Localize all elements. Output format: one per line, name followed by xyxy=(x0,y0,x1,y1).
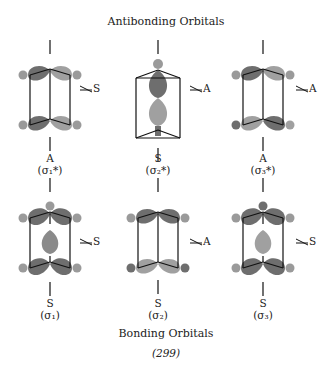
orbital-sigma3 xyxy=(232,178,295,296)
bonding-symmetry-1: S xyxy=(20,297,80,309)
mirror-label-sigma2-star: A xyxy=(203,82,211,94)
orbital-sigma2-star xyxy=(136,40,180,162)
antibonding-orbital-1: (σ₁*) xyxy=(20,164,80,176)
orbital-sigma1-star xyxy=(19,40,82,151)
figure-number: (299) xyxy=(0,347,332,359)
orbital-sigma1 xyxy=(19,178,82,296)
mirror-label-sigma1-star: S xyxy=(93,82,100,94)
bonding-orbital-3: (σ₃) xyxy=(233,309,293,321)
mirror-label-sigma2: A xyxy=(203,235,211,247)
antibonding-orbital-3: (σ₃*) xyxy=(233,164,293,176)
mirror-label-sigma3: S xyxy=(309,235,316,247)
antibonding-symmetry-1: A xyxy=(20,152,80,164)
mirror-label-sigma1: S xyxy=(93,235,100,247)
antibonding-orbital-2: (σ₂*) xyxy=(128,164,188,176)
orbital-sigma3-star xyxy=(232,40,295,151)
bonding-symmetry-3: S xyxy=(233,297,293,309)
bonding-title: Bonding Orbitals xyxy=(0,327,332,340)
antibonding-symmetry-3: A xyxy=(233,152,293,164)
bonding-orbital-1: (σ₁) xyxy=(20,309,80,321)
antibonding-symmetry-2: S xyxy=(128,152,188,164)
orbital-sigma2 xyxy=(127,178,190,294)
bonding-symmetry-2: S xyxy=(128,297,188,309)
mirror-label-sigma3-star: A xyxy=(309,82,317,94)
bonding-orbital-2: (σ₂) xyxy=(128,309,188,321)
